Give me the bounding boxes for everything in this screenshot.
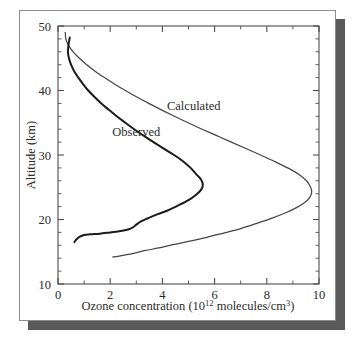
plot-area-border bbox=[58, 26, 319, 284]
series-annotation-calculated: Calculated bbox=[167, 99, 221, 113]
x-tick-label: 10 bbox=[313, 288, 326, 302]
y-tick-label: 10 bbox=[39, 278, 52, 292]
x-axis-title-prefix: Ozone concentration (10 bbox=[81, 299, 205, 313]
x-axis-ticks bbox=[58, 26, 319, 284]
y-tick-label: 20 bbox=[39, 213, 52, 227]
y-axis-title: Altitude (km) bbox=[24, 121, 38, 189]
y-axis-tick-labels: 1020304050 bbox=[39, 20, 52, 292]
y-axis-ticks bbox=[58, 26, 319, 284]
x-axis-title-suffix: molecules/cm bbox=[214, 299, 287, 313]
x-axis-title-tail: ) bbox=[290, 299, 294, 313]
x-axis-title: Ozone concentration (1012 molecules/cm3) bbox=[81, 298, 294, 314]
series-line-calculated bbox=[65, 32, 311, 256]
ozone-profile-chart: 0246810 1020304050 Calculated Observed A… bbox=[20, 11, 335, 320]
x-tick-label: 0 bbox=[55, 288, 61, 302]
x-axis-title-exponent: 12 bbox=[205, 298, 214, 308]
figure-root: 0246810 1020304050 Calculated Observed A… bbox=[0, 0, 355, 347]
series-line-observed bbox=[68, 38, 203, 242]
y-tick-label: 40 bbox=[39, 84, 52, 98]
y-tick-label: 50 bbox=[39, 20, 52, 34]
series-annotation-observed: Observed bbox=[112, 125, 161, 139]
figure-frame: 0246810 1020304050 Calculated Observed A… bbox=[19, 10, 336, 321]
y-tick-label: 30 bbox=[39, 149, 52, 163]
